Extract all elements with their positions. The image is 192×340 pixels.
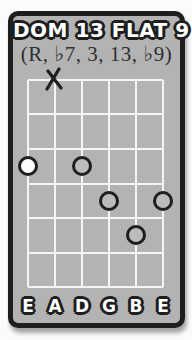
string-labels: EADGBE bbox=[28, 294, 163, 320]
chord-formula: (R, ♭7, 3, 13, ♭9) bbox=[13, 42, 180, 66]
string-label-3: G bbox=[97, 294, 121, 318]
string-label-2: D bbox=[70, 294, 94, 318]
fretboard-grid bbox=[28, 80, 163, 287]
note-marker bbox=[72, 156, 92, 176]
muted-string-x-icon bbox=[43, 67, 65, 91]
note-marker bbox=[153, 191, 173, 211]
string-label-4: B bbox=[124, 294, 148, 318]
fret-line-2 bbox=[28, 148, 163, 150]
string-label-0: E bbox=[16, 294, 40, 318]
string-label-1: A bbox=[43, 294, 67, 318]
fret-line-1 bbox=[28, 113, 163, 115]
note-marker bbox=[126, 225, 146, 245]
fret-line-3 bbox=[28, 183, 163, 185]
page: DOM 13 FLAT 9 (R, ♭7, 3, 13, ♭9) EADGBE bbox=[0, 0, 192, 340]
chord-card: DOM 13 FLAT 9 (R, ♭7, 3, 13, ♭9) EADGBE bbox=[8, 11, 185, 328]
fret-line-6 bbox=[28, 286, 163, 288]
note-marker bbox=[99, 191, 119, 211]
fret-line-4 bbox=[28, 217, 163, 219]
chord-title: DOM 13 FLAT 9 bbox=[13, 19, 180, 41]
root-note-marker bbox=[18, 156, 38, 176]
fret-line-5 bbox=[28, 252, 163, 254]
string-label-5: E bbox=[151, 294, 175, 318]
